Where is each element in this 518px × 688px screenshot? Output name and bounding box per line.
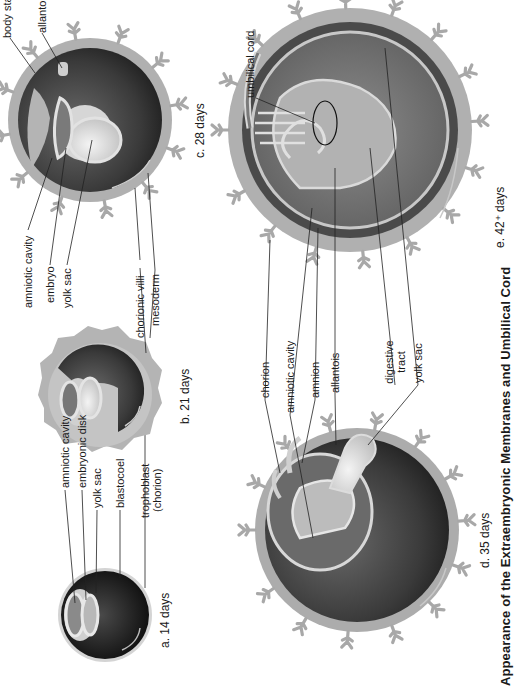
label-d-tract: tract xyxy=(395,338,407,386)
diagram-illustration xyxy=(0,0,518,688)
label-d-chorion: chorion xyxy=(259,362,271,398)
label-c-yolk-sac: yolk sac xyxy=(61,268,73,308)
label-c-body-stalk: body stalk xyxy=(1,0,13,38)
label-a-blastocoel: blastocoel xyxy=(114,458,126,508)
label-a-yolk-sac: yolk sac xyxy=(91,468,103,508)
label-a-embryonic-disk: embryonic disk xyxy=(76,415,88,488)
caption-a: a. 14 days xyxy=(158,593,172,648)
label-a-chorion: (chorion) xyxy=(151,469,163,512)
figure-title: Appearance of the Extraembryonic Membran… xyxy=(498,267,513,686)
label-d-digestive: digestive xyxy=(383,338,395,386)
label-d-yolk-sac: yolk sac xyxy=(412,343,424,383)
label-d-amnion: amnion xyxy=(309,362,321,398)
label-c-embryo: embryo xyxy=(44,266,56,303)
caption-c: c. 28 days xyxy=(193,103,207,158)
label-d-allantois: allantois xyxy=(329,353,341,393)
label-d-amniotic-cavity: amniotic cavity xyxy=(284,341,296,413)
label-c-chorionic-villi: chorionic villi xyxy=(134,276,146,338)
panel-d-35-days-embryo xyxy=(239,385,475,648)
label-a-trophoblast: trophoblast xyxy=(139,464,151,518)
panel-c-28-days-embryo xyxy=(0,23,187,270)
label-e-umbilical-cord: umbilical cord xyxy=(244,31,256,98)
label-a-amniotic-cavity: amniotic cavity xyxy=(59,416,71,488)
rotated-figure-page: amniotic cavity embryonic disk yolk sac … xyxy=(0,0,518,688)
caption-b: b. 21 days xyxy=(178,369,192,424)
label-c-mesoderm: mesoderm xyxy=(149,274,161,326)
caption-d: d. 35 days xyxy=(478,513,492,568)
label-c-amniotic-cavity: amniotic cavity xyxy=(22,236,34,308)
caption-e: e. 42⁺ days xyxy=(493,187,507,248)
label-c-allantois: allantois xyxy=(36,0,48,33)
